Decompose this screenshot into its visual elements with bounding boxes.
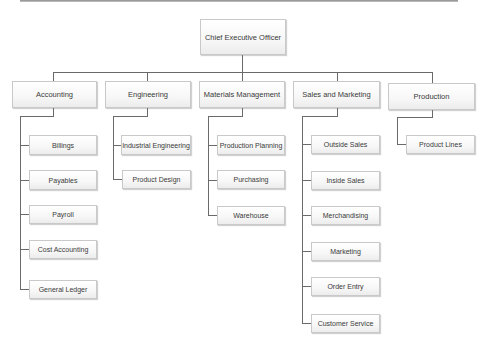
sub-node-merchandising[interactable]: Merchandising <box>311 206 380 225</box>
ceo-node[interactable]: Chief Executive Officer <box>200 19 286 55</box>
materials-branch <box>208 145 217 146</box>
department-accounting[interactable]: Accounting <box>12 81 97 108</box>
sub-node-customer-service[interactable]: Customer Service <box>311 314 380 333</box>
production-branch <box>397 144 406 145</box>
sales-down <box>337 108 338 116</box>
department-engineering[interactable]: Engineering <box>105 81 191 108</box>
department-label: Materials Management <box>204 90 280 99</box>
department-production[interactable]: Production <box>388 83 475 110</box>
ceo-label: Chief Executive Officer <box>205 33 281 42</box>
accounting-trunk <box>20 116 21 290</box>
drop-sales <box>337 72 338 81</box>
sub-node-payroll[interactable]: Payroll <box>29 205 97 224</box>
sub-node-label: Merchandising <box>323 211 369 220</box>
department-label: Accounting <box>36 90 73 99</box>
sub-node-label: Cost Accounting <box>38 245 89 254</box>
sales-branch <box>302 180 311 181</box>
engineering-down <box>147 108 148 116</box>
sales-elbow <box>302 116 338 117</box>
engineering-elbow <box>113 116 148 117</box>
drop-materials <box>242 72 243 81</box>
sales-trunk <box>302 116 303 324</box>
sub-node-purchasing[interactable]: Purchasing <box>217 170 285 189</box>
accounting-branch <box>20 145 29 146</box>
accounting-branch <box>20 214 29 215</box>
sub-node-warehouse[interactable]: Warehouse <box>217 206 285 225</box>
sub-node-label: Order Entry <box>327 282 363 291</box>
accounting-branch <box>20 249 29 250</box>
sales-branch <box>302 323 311 324</box>
department-label: Production <box>414 92 450 101</box>
materials-elbow <box>208 116 243 117</box>
department-bus <box>53 72 433 73</box>
top-rule-divider <box>20 0 458 2</box>
department-label: Engineering <box>128 90 168 99</box>
engineering-trunk <box>113 116 114 180</box>
sub-node-label: Inside Sales <box>326 176 364 185</box>
sub-node-payables[interactable]: Payables <box>29 170 97 190</box>
accounting-elbow <box>20 116 54 117</box>
materials-trunk <box>208 116 209 216</box>
sub-node-label: Product Design <box>133 175 181 184</box>
materials-branch <box>208 215 217 216</box>
sales-branch <box>302 286 311 287</box>
accounting-branch <box>20 180 29 181</box>
sub-node-production-planning[interactable]: Production Planning <box>217 135 285 155</box>
drop-engineering <box>147 72 148 81</box>
sub-node-label: Outside Sales <box>324 140 368 149</box>
department-label: Sales and Marketing <box>302 90 370 99</box>
drop-accounting <box>53 72 54 81</box>
sub-node-label: Purchasing <box>233 175 268 184</box>
sales-branch <box>302 251 311 252</box>
ceo-connector <box>242 55 243 72</box>
production-down <box>432 110 433 117</box>
sub-node-label: Production Planning <box>220 141 283 150</box>
sub-node-label: Customer Service <box>318 319 374 328</box>
production-trunk <box>397 117 398 145</box>
sales-branch <box>302 144 311 145</box>
sub-node-label: Marketing <box>330 247 361 256</box>
sub-node-marketing[interactable]: Marketing <box>311 242 380 261</box>
sub-node-cost-accounting[interactable]: Cost Accounting <box>29 240 97 259</box>
materials-down <box>242 108 243 116</box>
sub-node-order-entry[interactable]: Order Entry <box>311 277 380 296</box>
sub-node-label: Warehouse <box>233 211 269 220</box>
sub-node-label: Payroll <box>52 210 73 219</box>
sub-node-label: Product Lines <box>419 140 462 149</box>
sub-node-industrial-engineering[interactable]: Industrial Engineering <box>121 135 191 155</box>
sub-node-label: General Ledger <box>39 285 88 294</box>
sales-branch <box>302 215 311 216</box>
accounting-branch <box>20 289 29 290</box>
department-sales-and-marketing[interactable]: Sales and Marketing <box>293 81 380 108</box>
sub-node-inside-sales[interactable]: Inside Sales <box>311 171 380 190</box>
drop-production <box>432 72 433 83</box>
sub-node-general-ledger[interactable]: General Ledger <box>29 280 97 299</box>
sub-node-label: Industrial Engineering <box>122 141 190 150</box>
sub-node-label: Payables <box>49 176 78 185</box>
sub-node-product-design[interactable]: Product Design <box>122 170 191 189</box>
sub-node-label: Billings <box>52 141 74 150</box>
sub-node-outside-sales[interactable]: Outside Sales <box>311 135 380 154</box>
sub-node-product-lines[interactable]: Product Lines <box>406 135 475 154</box>
sub-node-billings[interactable]: Billings <box>29 135 97 155</box>
engineering-branch <box>113 179 122 180</box>
production-elbow <box>397 117 433 118</box>
accounting-down <box>53 108 54 116</box>
department-materials-management[interactable]: Materials Management <box>199 81 285 108</box>
materials-branch <box>208 180 217 181</box>
